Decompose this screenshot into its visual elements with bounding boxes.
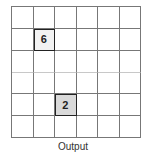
grid-cell bbox=[55, 73, 77, 95]
grid-cell bbox=[98, 116, 120, 138]
grid-cell bbox=[55, 51, 77, 73]
grid-cell bbox=[55, 29, 77, 51]
grid-cell bbox=[120, 7, 142, 29]
grid-cell-value: 2 bbox=[55, 94, 77, 116]
grid-cell bbox=[77, 94, 99, 116]
grid-cell bbox=[98, 94, 120, 116]
grid-cell bbox=[77, 29, 99, 51]
grid-cell bbox=[34, 116, 56, 138]
grid-cell-value: 6 bbox=[34, 29, 56, 51]
grid-cell bbox=[120, 94, 142, 116]
grid-cell bbox=[55, 7, 77, 29]
output-grid: 62 bbox=[11, 6, 141, 138]
grid-cell bbox=[34, 73, 56, 95]
grid-cell bbox=[98, 7, 120, 29]
grid-cell bbox=[34, 51, 56, 73]
grid-cell bbox=[77, 73, 99, 95]
grid-cell bbox=[120, 116, 142, 138]
grid-cell bbox=[120, 51, 142, 73]
grid-cell bbox=[77, 116, 99, 138]
grid-cell bbox=[98, 29, 120, 51]
grid-cell bbox=[55, 116, 77, 138]
grid-cell bbox=[120, 29, 142, 51]
grid-cell bbox=[12, 116, 34, 138]
grid-cell bbox=[12, 51, 34, 73]
grid-cell bbox=[77, 7, 99, 29]
grid-cell bbox=[34, 94, 56, 116]
grid-cell bbox=[120, 73, 142, 95]
grid-cell bbox=[34, 7, 56, 29]
grid-caption: Output bbox=[0, 141, 146, 152]
grid-cell bbox=[12, 73, 34, 95]
grid-cell bbox=[98, 51, 120, 73]
grid-cell bbox=[98, 73, 120, 95]
grid-cell bbox=[12, 29, 34, 51]
grid-cell bbox=[12, 7, 34, 29]
grid-cell bbox=[12, 94, 34, 116]
grid-cell bbox=[77, 51, 99, 73]
